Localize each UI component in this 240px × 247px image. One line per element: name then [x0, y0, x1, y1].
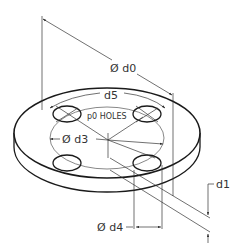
- label-d3: Ø d3: [62, 133, 88, 146]
- flange-drawing: Ø d0 d5 p0 HOLES Ø d3 Ø d4 d1: [0, 0, 240, 247]
- label-d0: Ø d0: [110, 62, 136, 75]
- label-holes: p0 HOLES: [87, 112, 127, 121]
- label-d4: Ø d4: [97, 221, 123, 234]
- label-d5: d5: [104, 89, 118, 102]
- flange-svg: Ø d0 d5 p0 HOLES Ø d3 Ø d4 d1: [0, 0, 240, 247]
- label-d1: d1: [216, 178, 230, 191]
